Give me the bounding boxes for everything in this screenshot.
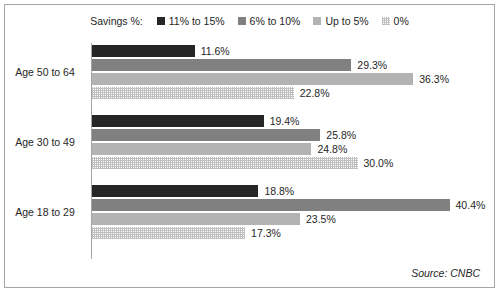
bar-value-label: 24.8%: [317, 143, 347, 155]
bar-value-label: 25.8%: [326, 129, 356, 141]
legend-swatch-icon-2: [313, 17, 321, 25]
legend-entry-1[interactable]: 6% to 10%: [238, 15, 301, 27]
bar-up-to-5-[interactable]: [92, 73, 413, 85]
legend-entry-2[interactable]: Up to 5%: [313, 15, 368, 27]
bar-value-label: 40.4%: [456, 199, 486, 211]
bar-11-to-15-[interactable]: [92, 115, 264, 127]
bar-value-label: 30.0%: [364, 157, 394, 169]
category-label: Age 50 to 64: [5, 66, 85, 78]
bar-value-label: 36.3%: [419, 73, 449, 85]
bar-row: 18.8%: [92, 185, 494, 197]
bar-6-to-10-[interactable]: [92, 59, 351, 71]
legend-label-1: 6% to 10%: [250, 15, 301, 27]
bar-group: Age 18 to 2918.8%40.4%23.5%17.3%: [5, 179, 494, 245]
bar-group: Age 30 to 4919.4%25.8%24.8%30.0%: [5, 109, 494, 175]
plot-area: Age 50 to 6411.6%29.3%36.3%22.8%Age 30 t…: [5, 39, 494, 287]
bar-row: 25.8%: [92, 129, 494, 141]
legend-label-2: Up to 5%: [325, 15, 368, 27]
bar-up-to-5-[interactable]: [92, 213, 300, 225]
legend-swatch-icon-3: [382, 17, 390, 25]
bar-row: 36.3%: [92, 73, 494, 85]
bar-group: Age 50 to 6411.6%29.3%36.3%22.8%: [5, 39, 494, 105]
bar-row: 40.4%: [92, 199, 494, 211]
bar-0-[interactable]: [92, 157, 358, 169]
bar-11-to-15-[interactable]: [92, 185, 258, 197]
legend-swatch-icon-1: [238, 17, 246, 25]
legend-swatch-icon-0: [157, 17, 165, 25]
bar-value-label: 17.3%: [251, 227, 281, 239]
bar-row: 17.3%: [92, 227, 494, 239]
bar-stack: 11.6%29.3%36.3%22.8%: [92, 45, 494, 101]
source-note: Source: CNBC: [411, 267, 480, 279]
bar-row: 30.0%: [92, 157, 494, 169]
bar-up-to-5-[interactable]: [92, 143, 311, 155]
bar-6-to-10-[interactable]: [92, 129, 320, 141]
bar-row: 24.8%: [92, 143, 494, 155]
legend-label-0: 11% to 15%: [169, 15, 225, 27]
bar-value-label: 22.8%: [300, 87, 330, 99]
legend-title: Savings %:: [90, 15, 143, 27]
legend-entry-3[interactable]: 0%: [382, 15, 409, 27]
bar-row: 19.4%: [92, 115, 494, 127]
bar-stack: 19.4%25.8%24.8%30.0%: [92, 115, 494, 171]
chart-frame: Savings %: 11% to 15% 6% to 10% Up to 5%…: [4, 4, 495, 288]
bar-row: 22.8%: [92, 87, 494, 99]
chart-legend: Savings %: 11% to 15% 6% to 10% Up to 5%…: [5, 15, 494, 27]
legend-entry-0[interactable]: 11% to 15%: [157, 15, 225, 27]
bar-value-label: 19.4%: [270, 115, 300, 127]
bar-row: 11.6%: [92, 45, 494, 57]
bar-value-label: 23.5%: [306, 213, 336, 225]
bar-6-to-10-[interactable]: [92, 199, 450, 211]
legend-label-3: 0%: [394, 15, 409, 27]
bar-0-[interactable]: [92, 227, 245, 239]
category-label: Age 30 to 49: [5, 136, 85, 148]
bar-stack: 18.8%40.4%23.5%17.3%: [92, 185, 494, 241]
category-label: Age 18 to 29: [5, 206, 85, 218]
bar-0-[interactable]: [92, 87, 294, 99]
bar-value-label: 29.3%: [357, 59, 387, 71]
bar-value-label: 11.6%: [201, 45, 230, 57]
bar-11-to-15-[interactable]: [92, 45, 195, 57]
bar-row: 23.5%: [92, 213, 494, 225]
bar-row: 29.3%: [92, 59, 494, 71]
bar-value-label: 18.8%: [264, 185, 294, 197]
